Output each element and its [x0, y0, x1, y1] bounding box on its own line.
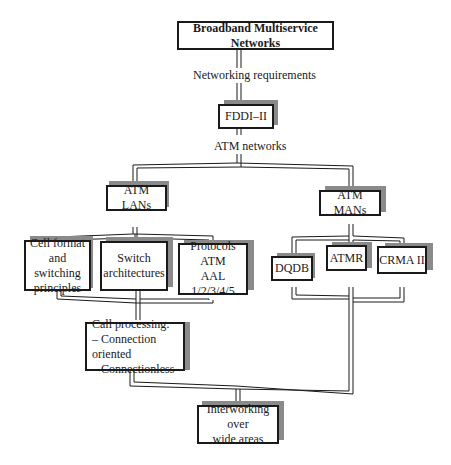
atmr-node-box: ATMR [326, 245, 367, 271]
dqdb-node-box: DQDB [271, 256, 313, 281]
atm-lans-node-label: ATM LANs [108, 183, 165, 213]
atm-lans-node-box: ATM LANs [106, 185, 167, 211]
interworking-node-box: Interworking over wide areas [197, 405, 279, 444]
protocols-node-box: Protocols ATM AAL 1/2/3/4/5 [178, 243, 248, 295]
crma-node-box: CRMA II [377, 246, 427, 274]
protocols-line-2: ATM [180, 254, 246, 269]
cell-format-node-text: Cell format and switching principles [26, 236, 89, 296]
dqdb-node-label: DQDB [275, 261, 309, 276]
call-processing-node-text: Call processing: – Connection oriented –… [92, 317, 183, 377]
switch-arch-line-1: Switch [103, 251, 164, 266]
root-node-label: Broadband Multiservice Networks [179, 21, 332, 51]
atmr-node-label: ATMR [330, 251, 363, 266]
edge-label-atm-networks: ATM networks [214, 139, 286, 154]
cell-format-line-1: Cell format [26, 236, 89, 251]
protocols-line-1: Protocols [180, 239, 246, 254]
cell-format-line-3: principles [26, 281, 89, 296]
interworking-line-2: wide areas [199, 432, 277, 447]
protocols-line-3: AAL 1/2/3/4/5 [180, 269, 246, 299]
atm-mans-node-label: ATM MANs [321, 188, 379, 218]
call-processing-line-2: – Connection oriented [92, 332, 183, 362]
switch-arch-node-text: Switch architectures [103, 251, 164, 281]
call-processing-line-3: – Connectionless [92, 362, 183, 377]
interworking-node-text: Interworking over wide areas [199, 402, 277, 447]
cell-format-node-box: Cell format and switching principles [24, 240, 91, 291]
switch-arch-line-2: architectures [103, 266, 164, 281]
root-node-box: Broadband Multiservice Networks [177, 21, 334, 50]
call-processing-line-1: Call processing: [92, 317, 183, 332]
call-processing-node-box: Call processing: – Connection oriented –… [85, 322, 185, 371]
cell-format-line-2: and switching [26, 251, 89, 281]
fddi-node-box: FDDI–II [218, 104, 274, 129]
atm-mans-node-box: ATM MANs [319, 190, 381, 216]
interworking-line-1: Interworking over [199, 402, 277, 432]
protocols-node-text: Protocols ATM AAL 1/2/3/4/5 [180, 239, 246, 299]
switch-arch-node-box: Switch architectures [100, 241, 168, 291]
fddi-node-label: FDDI–II [225, 109, 267, 124]
crma-node-label: CRMA II [379, 253, 425, 268]
edge-label-networking-requirements: Networking requirements [193, 68, 316, 83]
